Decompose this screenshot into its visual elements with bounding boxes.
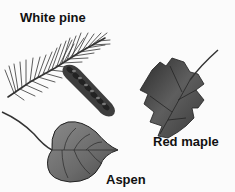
pine-cone-icon [62, 65, 115, 117]
label-red-maple: Red maple [153, 134, 219, 149]
label-aspen: Aspen [106, 172, 146, 187]
aspen-leaf-icon [2, 112, 118, 182]
illustration [0, 0, 235, 192]
label-white-pine: White pine [20, 10, 86, 25]
red-maple-leaf-icon [140, 50, 218, 138]
leaf-identification-figure: White pine Red maple Aspen [0, 0, 235, 192]
